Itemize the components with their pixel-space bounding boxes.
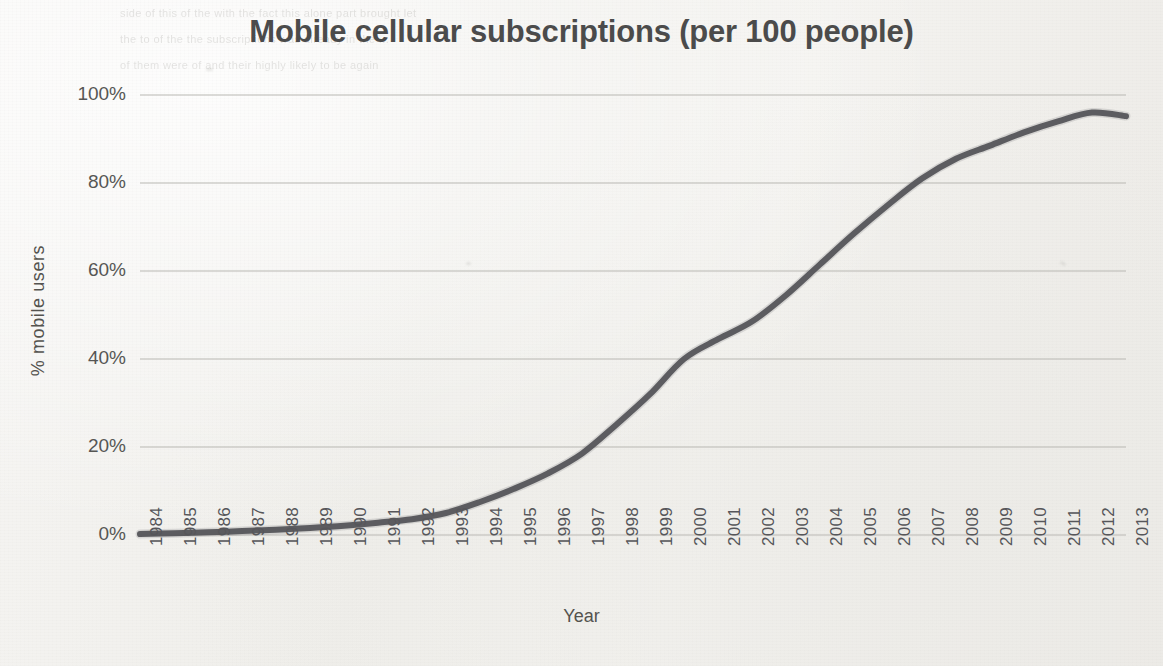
- x-axis-tick-label: 2012: [1099, 507, 1119, 546]
- series-line-1[interactable]: [140, 112, 1126, 534]
- x-axis-tick-label: 2003: [793, 507, 813, 546]
- series-line-halo: [140, 112, 1126, 534]
- x-axis-tick-label: 2000: [691, 507, 711, 546]
- x-axis-tick-label: 1993: [453, 507, 473, 546]
- chart-plot-area: [0, 0, 1163, 666]
- x-axis-tick-label: 2002: [759, 507, 779, 546]
- x-axis-tick-label: 1998: [623, 507, 643, 546]
- x-axis-tick-label: 2011: [1065, 508, 1085, 546]
- x-axis-tick-label: 2006: [895, 507, 915, 546]
- x-axis-tick-label: 1985: [181, 507, 201, 546]
- chart-page: side of this of the with the fact this a…: [0, 0, 1163, 666]
- x-axis-tick-label: 1997: [589, 507, 609, 546]
- y-axis-tick-label: 80%: [36, 171, 126, 193]
- y-axis-title: % mobile users: [28, 221, 49, 401]
- y-axis-tick-label: 20%: [36, 435, 126, 457]
- x-axis-tick-label: 2001: [725, 507, 745, 546]
- x-axis-tick-label: 2013: [1133, 507, 1153, 546]
- y-axis-tick-label: 40%: [36, 347, 126, 369]
- x-axis-tick-label: 1984: [147, 507, 167, 546]
- y-axis-tick-label: 60%: [36, 259, 126, 281]
- x-axis-tick-label: 2007: [929, 507, 949, 546]
- y-axis-tick-label: 100%: [36, 83, 126, 105]
- x-axis-tick-label: 1991: [385, 507, 405, 546]
- x-axis-tick-label: 2008: [963, 507, 983, 546]
- x-axis-title: Year: [0, 606, 1163, 627]
- x-axis-tick-label: 1999: [657, 507, 677, 546]
- x-axis-tick-label: 1988: [283, 507, 303, 546]
- x-axis-tick-label: 2005: [861, 507, 881, 546]
- gridlines: [140, 95, 1126, 535]
- x-axis-tick-label: 1995: [521, 507, 541, 546]
- x-axis-tick-label: 2010: [1031, 507, 1051, 546]
- x-axis-tick-label: 1996: [555, 507, 575, 546]
- x-axis-tick-label: 1989: [317, 507, 337, 546]
- y-axis-tick-label: 0%: [36, 523, 126, 545]
- series-paths: [140, 112, 1126, 534]
- x-axis-tick-label: 1992: [419, 507, 439, 546]
- x-axis-tick-label: 2004: [827, 507, 847, 546]
- x-axis-tick-label: 2009: [997, 507, 1017, 546]
- x-axis-tick-label: 1986: [215, 507, 235, 546]
- x-axis-tick-label: 1987: [249, 507, 269, 546]
- x-axis-tick-label: 1990: [351, 507, 371, 546]
- x-axis-tick-label: 1994: [487, 507, 507, 546]
